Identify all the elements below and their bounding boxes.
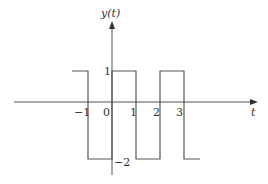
tick-label-3: 3 (176, 106, 183, 119)
level-label-high: 1 (104, 65, 111, 78)
t-axis-arrow-icon (250, 99, 258, 105)
tick-label-2: 2 (153, 106, 160, 119)
tick-label-neg1: −1 (74, 106, 90, 119)
signal-diagram: y(t) t −1 0 1 2 3 1 −2 (0, 0, 268, 184)
y-axis-arrow-icon (109, 21, 115, 29)
y-axis-label: y(t) (100, 7, 120, 20)
tick-label-1: 1 (130, 106, 137, 119)
level-label-low: −2 (114, 156, 130, 169)
tick-label-0: 0 (103, 106, 110, 119)
t-axis-label: t (251, 106, 256, 119)
